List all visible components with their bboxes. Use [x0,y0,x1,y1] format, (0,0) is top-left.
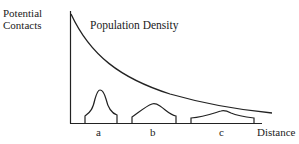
contact-peak-a [85,90,117,124]
peak-b-label: b [150,126,156,138]
contact-peak-c [191,111,254,124]
peak-a-label: a [96,126,101,138]
contact-peak-b [132,104,176,124]
population-density-curve [71,14,272,113]
peak-c-label: c [219,126,224,138]
diagram-canvas [0,0,299,144]
x-axis-label: Distance [257,126,295,138]
